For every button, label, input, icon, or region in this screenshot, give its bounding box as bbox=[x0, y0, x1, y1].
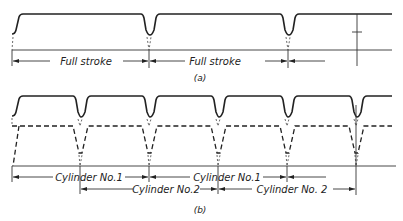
svg-text:Full stroke: Full stroke bbox=[189, 56, 241, 67]
guide-line bbox=[78, 119, 82, 126]
stroke-diagram: Full stroke Full stroke (a) bbox=[0, 0, 403, 221]
dimension-trailing-arrow bbox=[288, 175, 326, 179]
panel-b-dashed-trace bbox=[12, 126, 392, 153]
svg-text:Cylinder No.1: Cylinder No.1 bbox=[193, 172, 261, 183]
guide-line bbox=[285, 119, 289, 126]
panel-a-trace bbox=[12, 14, 392, 35]
guide-line bbox=[12, 37, 13, 50]
dashed-start-guide bbox=[13, 126, 19, 166]
guide-line bbox=[286, 37, 290, 50]
svg-text:Cylinder No.1: Cylinder No.1 bbox=[55, 172, 123, 183]
panel-b-caption: (b) bbox=[194, 205, 207, 215]
dimension-cylinder-2-a: Cylinder No.2 bbox=[81, 184, 217, 195]
dimension-trailing-arrow bbox=[289, 59, 325, 63]
dimension-cylinder-1-b: Cylinder No.1 bbox=[150, 172, 286, 183]
guide-line bbox=[147, 119, 151, 126]
panel-a: Full stroke Full stroke (a) bbox=[12, 14, 392, 83]
guide-line bbox=[217, 155, 220, 166]
guide-line bbox=[148, 155, 151, 166]
guide-line bbox=[147, 37, 151, 50]
dimension-full-stroke-1: Full stroke bbox=[13, 56, 148, 67]
guide-line bbox=[355, 155, 358, 166]
guide-line bbox=[79, 155, 82, 166]
guide-line bbox=[216, 119, 220, 126]
dimension-cylinder-2-b: Cylinder No. 2 bbox=[219, 184, 355, 195]
dimension-cylinder-1-a: Cylinder No.1 bbox=[13, 172, 148, 183]
svg-text:Cylinder No.2: Cylinder No.2 bbox=[132, 184, 200, 195]
panel-b: Cylinder No.1 Cylinder No.1 Cylinder No.… bbox=[12, 96, 396, 215]
dimension-full-stroke-2: Full stroke bbox=[150, 56, 287, 67]
panel-b-solid-trace bbox=[12, 96, 392, 117]
svg-text:Full stroke: Full stroke bbox=[60, 56, 112, 67]
svg-text:Cylinder No. 2: Cylinder No. 2 bbox=[257, 184, 328, 195]
guide-line bbox=[286, 155, 289, 166]
panel-a-caption: (a) bbox=[194, 73, 207, 83]
